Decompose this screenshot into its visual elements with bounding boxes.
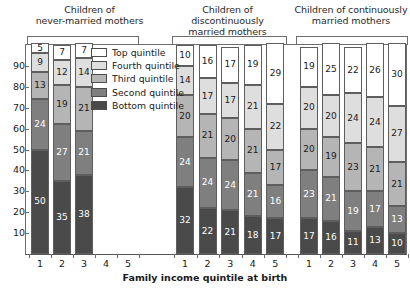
bar-segment-value: 17 bbox=[369, 205, 380, 214]
bar-segment: 21 bbox=[199, 114, 217, 158]
group-title-line2: married mothers bbox=[292, 15, 410, 26]
legend-label: Top quintile bbox=[112, 47, 165, 58]
x-axis-tick-label: 5 bbox=[387, 258, 407, 269]
stacked-bar: 1013212730 bbox=[388, 45, 406, 254]
bar-segment-value: 32 bbox=[179, 216, 190, 225]
legend-item: Fourth quintile bbox=[91, 59, 179, 72]
bar-segment: 29 bbox=[266, 43, 284, 104]
x-axis-tick-label: 5 bbox=[265, 258, 285, 269]
bar-segment: 25 bbox=[322, 43, 340, 95]
bar-segment-value: 21 bbox=[247, 190, 258, 199]
y-axis-tick-mark bbox=[25, 191, 29, 192]
bar-segment: 10 bbox=[388, 233, 406, 254]
bar-segment: 17 bbox=[266, 150, 284, 186]
bar-segment: 17 bbox=[366, 191, 384, 227]
bar-segment: 17 bbox=[221, 83, 239, 119]
bar-segment: 19 bbox=[322, 137, 340, 177]
legend-item: Third quintile bbox=[91, 72, 179, 85]
bar-segment-value: 24 bbox=[202, 178, 213, 187]
bar-segment-value: 20 bbox=[224, 135, 235, 144]
bar-segment-value: 18 bbox=[247, 231, 258, 240]
bar-segment: 5 bbox=[31, 43, 49, 53]
bar-segment-value: 14 bbox=[78, 68, 89, 77]
x-axis-tick-mark bbox=[242, 254, 243, 258]
bar-segment: 21 bbox=[322, 177, 340, 221]
bar-segment-value: 16 bbox=[325, 233, 336, 242]
bar-segment-value: 5 bbox=[37, 44, 43, 53]
legend-label: Second quintile bbox=[112, 87, 184, 98]
bar-segment: 21 bbox=[388, 162, 406, 206]
y-axis-tick-mark bbox=[25, 129, 29, 130]
x-axis-tick-label: 1 bbox=[175, 258, 195, 269]
bar-segment-value: 27 bbox=[56, 148, 67, 157]
bar-segment-value: 19 bbox=[56, 100, 67, 109]
x-axis-tick-label: 2 bbox=[198, 258, 218, 269]
stacked-bar: 50241395 bbox=[31, 45, 49, 254]
x-axis-tick-label: 3 bbox=[343, 258, 363, 269]
x-axis-tick-mark bbox=[264, 254, 265, 258]
bar-segment-value: 20 bbox=[325, 112, 336, 121]
bar-segment: 24 bbox=[31, 99, 49, 149]
bar-segment: 21 bbox=[221, 210, 239, 254]
x-axis-tick-mark bbox=[73, 254, 74, 258]
bar-segment: 11 bbox=[344, 231, 362, 254]
bar-segment-value: 14 bbox=[179, 76, 190, 85]
bar-segment-value: 21 bbox=[325, 194, 336, 203]
bar-segment-value: 16 bbox=[270, 197, 281, 206]
bar-segment: 22 bbox=[266, 104, 284, 150]
x-axis-tick-label: 4 bbox=[96, 258, 116, 269]
bar-segment: 13 bbox=[366, 227, 384, 254]
bar-segment: 19 bbox=[300, 47, 318, 87]
legend-swatch bbox=[91, 101, 107, 110]
x-axis-tick-label: 3 bbox=[220, 258, 240, 269]
bar-segment-value: 22 bbox=[270, 122, 281, 131]
bar-segment: 24 bbox=[366, 97, 384, 147]
x-axis-tick-label: 4 bbox=[243, 258, 263, 269]
x-axis-label: Family income quintile at birth bbox=[0, 272, 410, 283]
group-title-line1: Children of bbox=[22, 4, 157, 15]
bar-segment: 22 bbox=[344, 47, 362, 93]
y-axis-tick-label: 80 bbox=[3, 81, 25, 92]
bar-segment-value: 30 bbox=[391, 70, 402, 79]
legend-item: Second quintile bbox=[91, 86, 179, 99]
x-axis-tick-label: 5 bbox=[118, 258, 138, 269]
legend-item: Bottom quintile bbox=[91, 99, 179, 112]
x-axis-tick-mark bbox=[408, 254, 409, 258]
bar-segment: 7 bbox=[53, 45, 71, 60]
x-axis-tick-mark bbox=[386, 254, 387, 258]
bar-segment-value: 23 bbox=[303, 190, 314, 199]
bar-segment: 21 bbox=[244, 85, 262, 129]
y-axis-tick-mark bbox=[25, 150, 29, 151]
bar-segment-value: 24 bbox=[369, 118, 380, 127]
group-title-line1: Children of continuously bbox=[292, 4, 410, 15]
x-axis-tick-mark bbox=[95, 254, 96, 258]
bar-segment: 17 bbox=[199, 78, 217, 114]
bar-segment: 23 bbox=[300, 170, 318, 218]
bar-segment: 24 bbox=[221, 160, 239, 210]
x-axis-tick-label: 1 bbox=[299, 258, 319, 269]
y-axis-tick-label: 20 bbox=[3, 206, 25, 217]
group-title-line1: Children of discontinuously bbox=[165, 4, 290, 26]
bar-segment: 24 bbox=[344, 93, 362, 143]
stacked-bar: 1716172229 bbox=[266, 45, 284, 254]
bar-segment-value: 10 bbox=[179, 51, 190, 60]
y-axis-tick-label: 30 bbox=[3, 185, 25, 196]
x-axis-tick-label: 2 bbox=[52, 258, 72, 269]
y-axis-tick-mark bbox=[25, 87, 29, 88]
bar-segment-value: 19 bbox=[325, 152, 336, 161]
bar-segment: 23 bbox=[344, 143, 362, 191]
bar-segment: 17 bbox=[300, 218, 318, 254]
bar-segment-value: 17 bbox=[202, 92, 213, 101]
stacked-bar: 2124201717 bbox=[221, 45, 239, 254]
stacked-bar-chart: Children of never-married mothers Childr… bbox=[0, 0, 410, 293]
bar-segment-value: 13 bbox=[391, 215, 402, 224]
bar-segment: 20 bbox=[221, 118, 239, 160]
bar-segment: 20 bbox=[300, 129, 318, 171]
legend-swatch bbox=[91, 61, 107, 70]
bar-segment: 24 bbox=[199, 158, 217, 208]
bar-segment-value: 21 bbox=[224, 228, 235, 237]
bar-segment-value: 17 bbox=[303, 232, 314, 241]
y-axis-tick-label: 70 bbox=[3, 102, 25, 113]
legend-swatch bbox=[91, 74, 107, 83]
bar-segment: 12 bbox=[53, 60, 71, 85]
